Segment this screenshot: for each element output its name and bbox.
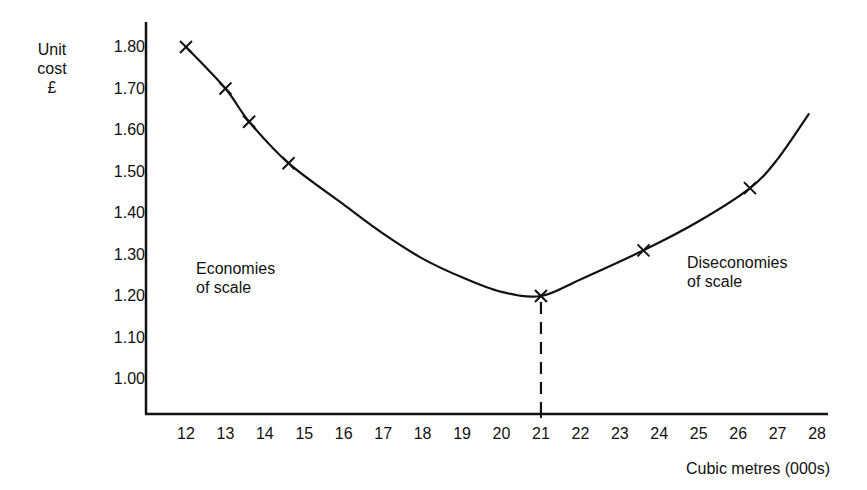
- y-tick-label: 1.40: [105, 205, 145, 221]
- y-tick-label: 1.80: [105, 39, 145, 55]
- x-tick-label: 28: [802, 426, 832, 442]
- y-tick-label: 1.70: [105, 81, 145, 97]
- y-tick-label: 1.30: [105, 247, 145, 263]
- chart-canvas: [0, 0, 867, 490]
- x-marker-icon: [243, 116, 255, 128]
- y-tick-label: 1.00: [105, 371, 145, 387]
- x-tick-label: 22: [565, 426, 595, 442]
- y-axis-label-line-3: £: [28, 78, 76, 97]
- y-tick-label: 1.60: [105, 122, 145, 138]
- x-tick-label: 20: [487, 426, 517, 442]
- x-tick-label: 14: [250, 426, 280, 442]
- economies-of-scale-annotation: Economies of scale: [196, 259, 275, 297]
- x-tick-label: 16: [329, 426, 359, 442]
- x-tick-label: 15: [289, 426, 319, 442]
- x-marker-icon: [283, 157, 295, 169]
- x-tick-label: 23: [605, 426, 635, 442]
- x-marker-icon: [638, 244, 650, 256]
- y-axis-label: Unit cost £: [28, 40, 76, 97]
- y-axis-label-line-1: Unit: [28, 40, 76, 59]
- y-axis-label-line-2: cost: [28, 59, 76, 78]
- x-tick-label: 19: [447, 426, 477, 442]
- x-tick-label: 27: [763, 426, 793, 442]
- diseconomies-line-2: of scale: [687, 272, 787, 291]
- y-tick-label: 1.20: [105, 288, 145, 304]
- economies-line-2: of scale: [196, 278, 275, 297]
- y-tick-label: 1.50: [105, 164, 145, 180]
- x-axis-label: Cubic metres (000s): [686, 459, 830, 478]
- x-tick-label: 24: [644, 426, 674, 442]
- x-tick-label: 26: [723, 426, 753, 442]
- x-marker-icon: [180, 41, 192, 53]
- x-tick-label: 18: [408, 426, 438, 442]
- x-tick-label: 17: [368, 426, 398, 442]
- x-tick-label: 25: [684, 426, 714, 442]
- diseconomies-of-scale-annotation: Diseconomies of scale: [687, 253, 787, 291]
- y-tick-label: 1.10: [105, 330, 145, 346]
- x-tick-label: 12: [171, 426, 201, 442]
- x-marker-icon: [219, 83, 231, 95]
- x-marker-icon: [744, 182, 756, 194]
- x-tick-label: 13: [210, 426, 240, 442]
- economies-line-1: Economies: [196, 259, 275, 278]
- diseconomies-line-1: Diseconomies: [687, 253, 787, 272]
- x-tick-label: 21: [526, 426, 556, 442]
